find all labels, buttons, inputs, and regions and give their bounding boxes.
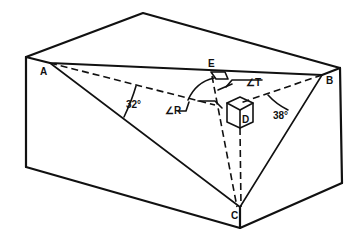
label-d: D <box>242 114 249 125</box>
label-angle-r: ∠R <box>165 105 182 116</box>
label-b: B <box>326 75 333 86</box>
label-e: E <box>208 58 215 69</box>
label-angle-38: 38° <box>273 110 288 121</box>
geometry-diagram: A B C D E 32° 38° ∠R ∠T <box>0 0 349 238</box>
dashed-line-e-c <box>212 76 237 207</box>
box-right-edge <box>340 68 342 183</box>
line-ac <box>50 63 240 207</box>
box-bottom-edges <box>26 167 342 228</box>
label-angle-32: 32° <box>126 99 141 110</box>
cube-top <box>227 97 253 110</box>
label-c: C <box>231 210 238 221</box>
box-top-front-edges <box>26 57 340 75</box>
angle-arc-r <box>188 78 214 100</box>
label-angle-t: ∠T <box>246 77 261 88</box>
line-bc <box>240 75 322 207</box>
t-arrow <box>218 84 232 90</box>
box-top-back-edges <box>26 13 340 68</box>
label-a: A <box>40 66 47 77</box>
angle-arc-38 <box>268 95 288 110</box>
angle-markers <box>124 78 288 117</box>
dashed-line-d-c <box>240 128 241 207</box>
